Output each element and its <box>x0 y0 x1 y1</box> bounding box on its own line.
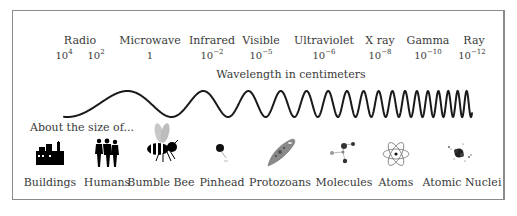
object-label: Protozoans <box>249 176 311 189</box>
object-label: Buildings <box>24 176 77 189</box>
object-label: Bumble Bee <box>127 176 194 189</box>
object-label: Pinhead <box>199 176 244 189</box>
atomic-nucleus-icon <box>445 141 475 165</box>
object-label: Molecules <box>316 176 373 189</box>
molecule-icon <box>328 141 360 165</box>
bumble-bee-icon <box>145 123 179 165</box>
object-label: Atoms <box>379 176 414 189</box>
about-size-label: About the size of... <box>30 121 134 134</box>
object-label: Humans <box>84 176 130 189</box>
object-label: Atomic Nuclei <box>423 176 502 189</box>
humans-icon <box>94 138 120 168</box>
buildings-icon <box>35 141 65 165</box>
protozoan-icon <box>264 136 298 168</box>
atom-icon <box>381 141 411 167</box>
pinhead-icon <box>214 142 230 164</box>
